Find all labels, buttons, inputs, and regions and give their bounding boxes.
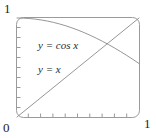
origin-label: 0 (3, 121, 10, 134)
x-axis-max-label: 1 (144, 117, 151, 130)
plot-canvas (0, 0, 156, 138)
annotation-identity: y = x (38, 64, 61, 75)
y-axis-max-label: 1 (4, 2, 11, 15)
annotation-cosine: y = cos x (38, 40, 78, 51)
chart-figure: 1 0 1 y = cos x y = x (0, 0, 156, 138)
